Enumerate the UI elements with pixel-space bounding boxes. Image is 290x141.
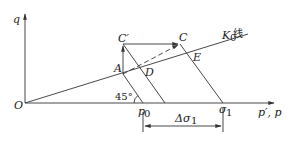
point-c-label: C [179,31,188,44]
k0-line-label: K 0 线 [221,27,243,43]
point-c-prime-label: C′ [118,32,129,45]
line-c-to-sigma1 [180,44,223,103]
point-d-label: D [144,66,154,79]
p0-label: p 0 [138,105,150,119]
svg-text:Δσ: Δσ [174,112,191,125]
q-axis-label: q [13,13,20,26]
svg-text:0: 0 [144,108,150,119]
delta-sigma-label: Δσ 1 [174,112,197,126]
svg-text:线: 线 [233,27,243,39]
point-e-label: E [192,51,201,64]
p-axis-label: p′, p [258,106,282,119]
angle-arc [134,96,138,103]
svg-text:1: 1 [226,107,232,118]
point-a-label: A [113,62,122,75]
sigma1-label: σ 1 [219,103,232,118]
angle-label: 45° [115,91,133,102]
stress-path-diagram: q O p′, p C′ C A D E 45° p 0 σ 1 K 0 线 Δ… [0,0,290,141]
svg-text:1: 1 [191,115,197,126]
origin-label: O [14,99,23,112]
